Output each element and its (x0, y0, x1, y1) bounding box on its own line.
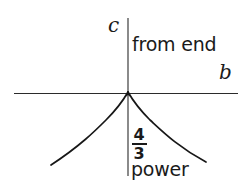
cusp-curve-left-branch (51, 92, 128, 165)
fraction-numerator: 4 (128, 127, 150, 142)
plot-canvas (0, 0, 244, 194)
annotation-power: power (131, 160, 189, 179)
cusp-diagram-figure: c b from end 4 3 power (0, 0, 244, 194)
horizontal-axis-label: b (219, 62, 232, 82)
fraction-four-thirds: 4 3 (128, 127, 150, 161)
vertical-axis-label: c (108, 15, 119, 35)
annotation-from-end: from end (132, 35, 216, 54)
